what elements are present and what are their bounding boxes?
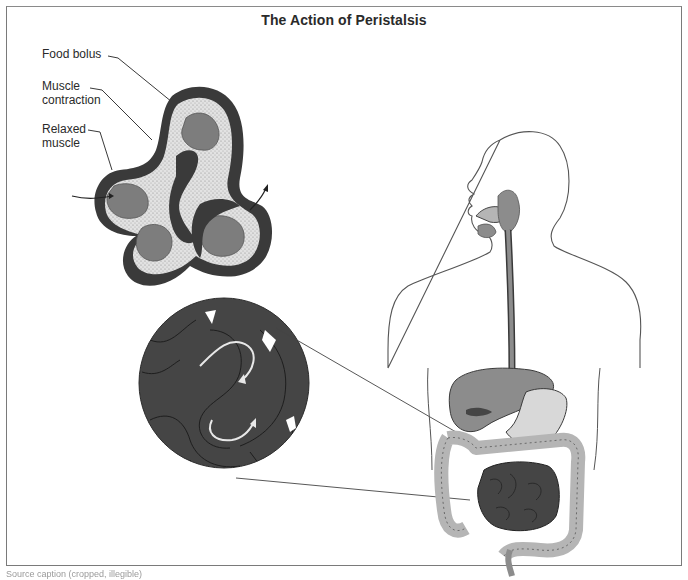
human-torso-digestive-system <box>388 132 641 576</box>
food-bolus-2 <box>107 184 148 219</box>
magnified-intestine-circle <box>139 298 309 470</box>
figure-caption: Source caption (cropped, illegible) <box>6 569 142 579</box>
peristalsis-cross-section <box>72 87 272 286</box>
salivary-gland <box>498 190 520 232</box>
diagram-art <box>0 0 688 580</box>
rectum <box>508 550 512 576</box>
small-intestine <box>478 462 560 531</box>
food-bolus-3 <box>136 224 172 261</box>
